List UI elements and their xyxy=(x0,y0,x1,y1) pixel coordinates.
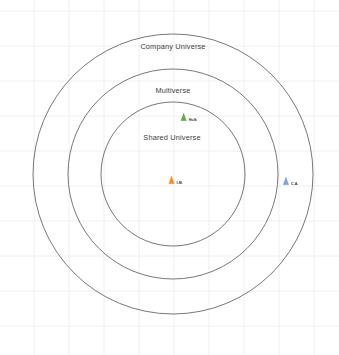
concentric-rings xyxy=(0,0,339,355)
ring-shared-universe xyxy=(101,102,245,246)
ring-multiverse xyxy=(68,69,278,279)
ring-company-universe xyxy=(33,34,313,314)
diagram-canvas: Company Universe Multiverse Shared Unive… xyxy=(0,0,339,355)
